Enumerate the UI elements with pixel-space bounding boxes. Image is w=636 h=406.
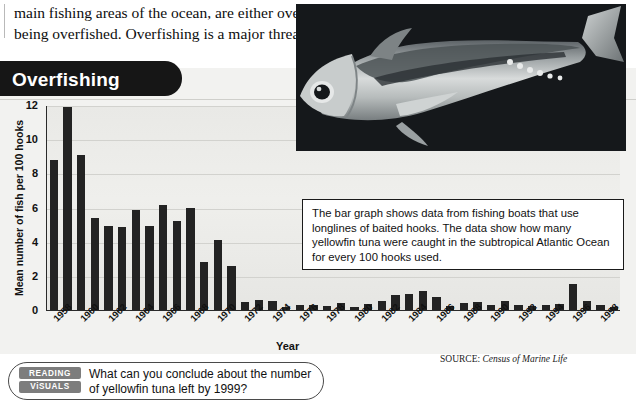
gridline	[47, 174, 620, 175]
bar	[159, 205, 167, 310]
y-tick-label: 4	[12, 236, 38, 248]
question-text: What can you conclude about the number o…	[89, 367, 317, 397]
bar	[186, 208, 194, 310]
reading-visuals-badge: READING ViSUALS	[19, 367, 81, 394]
x-axis-title: Year	[276, 340, 299, 352]
y-tick-label: 0	[12, 304, 38, 316]
bar	[118, 227, 126, 310]
badge-line-2: ViSUALS	[19, 381, 81, 393]
bar	[132, 210, 140, 310]
figure-overfishing: Overfishing Mean number of fish per 100 …	[0, 52, 636, 354]
y-tick-label: 2	[12, 270, 38, 282]
y-tick-label: 8	[12, 167, 38, 179]
bar	[145, 226, 153, 310]
source-value: Census of Marine Life	[483, 354, 568, 364]
y-tick-label: 6	[12, 202, 38, 214]
bar	[432, 297, 440, 310]
y-tick-label: 12	[12, 99, 38, 111]
source-credit: SOURCE: Census of Marine Life	[440, 354, 567, 364]
reading-visuals-question[interactable]: READING ViSUALS What can you conclude ab…	[8, 362, 324, 400]
yellowfin-tuna-photo	[296, 4, 626, 151]
source-label: SOURCE:	[440, 354, 480, 364]
margin-rule	[4, 4, 5, 38]
bar	[50, 160, 58, 310]
y-tick-label: 10	[12, 133, 38, 145]
bar	[214, 240, 222, 310]
badge-line-1: READING	[19, 367, 81, 379]
bar	[91, 218, 99, 310]
bar	[569, 284, 577, 310]
bar	[77, 155, 85, 310]
callout-box: The bar graph shows data from fishing bo…	[302, 199, 624, 270]
bar	[63, 107, 71, 310]
bar	[405, 294, 413, 310]
bar	[104, 226, 112, 310]
bar	[173, 221, 181, 310]
